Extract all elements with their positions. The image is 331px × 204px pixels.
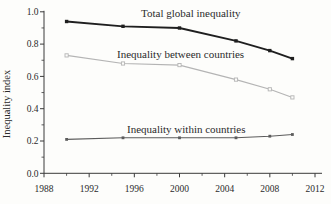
data-point-marker-inequality-between-countries — [65, 54, 68, 57]
series-label-inequality-between-countries: Inequality between countries — [117, 48, 244, 60]
global-inequality-figure: 0.00.20.40.60.81.01988199219962000200420… — [0, 0, 331, 204]
y-tick-label: 1.0 — [27, 7, 39, 17]
y-axis-title: Inequality index — [1, 69, 12, 138]
data-point-marker-inequality-within-countries — [65, 138, 68, 141]
data-point-marker-total-global-inequality — [291, 57, 294, 60]
data-point-marker-inequality-between-countries — [121, 62, 124, 65]
data-point-marker-total-global-inequality — [178, 26, 181, 29]
inequality-chart: 0.00.20.40.60.81.01988199219962000200420… — [0, 0, 331, 204]
x-tick-label: 2012 — [306, 184, 325, 194]
data-point-marker-inequality-within-countries — [235, 136, 238, 139]
y-tick-label: 0.8 — [27, 39, 39, 49]
x-tick-label: 1992 — [80, 184, 99, 194]
data-point-marker-inequality-between-countries — [234, 78, 237, 81]
data-point-marker-total-global-inequality — [65, 20, 68, 23]
y-tick-label: 0.6 — [27, 72, 39, 82]
data-point-marker-total-global-inequality — [234, 39, 237, 42]
data-point-marker-total-global-inequality — [268, 49, 271, 52]
data-point-marker-inequality-between-countries — [178, 64, 181, 67]
series-label-inequality-within-countries: Inequality within countries — [127, 123, 246, 135]
x-tick-label: 2004 — [215, 184, 234, 194]
data-point-marker-total-global-inequality — [121, 25, 124, 28]
x-tick-label: 2000 — [170, 184, 189, 194]
series-label-total-global-inequality: Total global inequality — [141, 7, 241, 19]
data-point-marker-inequality-within-countries — [291, 133, 294, 136]
x-tick-label: 1996 — [125, 184, 144, 194]
data-point-marker-inequality-within-countries — [122, 136, 125, 139]
y-tick-label: 0.2 — [27, 136, 39, 146]
data-point-marker-inequality-between-countries — [291, 96, 294, 99]
series-line-inequality-between-countries — [67, 55, 293, 97]
data-point-marker-inequality-between-countries — [268, 88, 271, 91]
x-tick-label: 1988 — [35, 184, 54, 194]
data-point-marker-inequality-within-countries — [268, 135, 271, 138]
y-tick-label: 0.0 — [27, 169, 39, 179]
data-point-marker-inequality-within-countries — [178, 136, 181, 139]
y-tick-label: 0.4 — [27, 104, 39, 114]
x-tick-label: 2008 — [260, 184, 279, 194]
